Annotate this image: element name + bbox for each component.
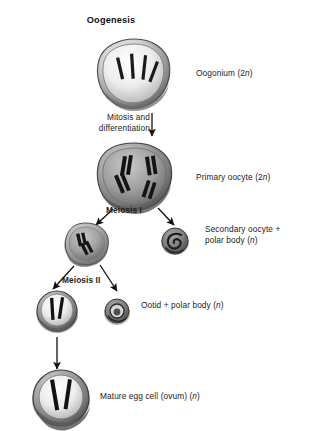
- page-title: Oogenesis: [0, 15, 222, 25]
- cell-secondary-oocyte: [64, 223, 108, 267]
- process-label-mitosis: Mitosis anddifferentiation: [56, 112, 150, 133]
- process-label-meiosis-1: Meiosis I: [106, 205, 142, 216]
- meiosis1-right-arrow: [158, 208, 174, 225]
- cell-mature-egg: [32, 370, 90, 431]
- cell-label-oogonium: Oogonium (2n): [196, 68, 253, 79]
- cell-primary-oocyte: [97, 143, 171, 214]
- oogenesis-diagram: Oogenesis: [0, 0, 309, 431]
- cell-oogonium: [98, 39, 171, 111]
- diagram-canvas: [0, 0, 309, 431]
- cell-ootid: [36, 291, 78, 333]
- meiosis2-right-arrow: [100, 265, 117, 291]
- cell-second-polar-body: [104, 299, 130, 325]
- cell-label-ootid: Ootid + polar body (n): [141, 300, 224, 311]
- process-label-meiosis-2: Meiosis II: [62, 275, 100, 286]
- cell-label-mature-egg: Mature egg cell (ovum) (n): [100, 391, 200, 402]
- cell-label-secondary-oocyte: Secondary oocyte +polar body (n): [205, 224, 309, 245]
- mitosis-bold-text: Mitosis: [107, 112, 134, 122]
- cell-first-polar-body: [161, 228, 189, 255]
- cell-label-primary-oocyte: Primary oocyte (2n): [196, 172, 270, 183]
